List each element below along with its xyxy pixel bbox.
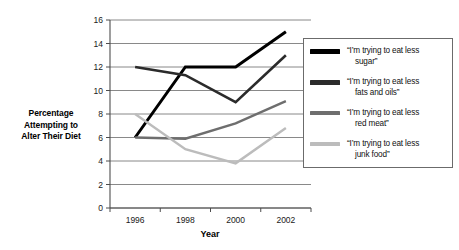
legend-label-line-1: “I’m trying to eat less xyxy=(347,108,419,117)
chart-figure: Percentage Attempting to Alter Their Die… xyxy=(0,0,459,250)
x-tick-marks xyxy=(110,208,311,212)
legend-swatch-icon xyxy=(310,142,340,146)
legend-item: “I’m trying to eat lessjunk food” xyxy=(310,138,452,168)
series-line xyxy=(135,32,286,138)
legend-label-line-1: “I’m trying to eat less xyxy=(347,46,419,55)
x-tick-label: 1996 xyxy=(126,215,145,225)
legend-item: “I’m trying to eat lesssugar” xyxy=(310,45,452,75)
legend-label-line-1: “I’m trying to eat less xyxy=(347,77,419,86)
y-tick-labels: 0246810121416 xyxy=(94,15,104,213)
y-tick-label: 16 xyxy=(94,15,104,25)
x-tick-label: 2002 xyxy=(276,215,295,225)
x-axis-title: Year xyxy=(110,229,310,239)
y-tick-label: 14 xyxy=(94,39,104,49)
legend-label-line-2: junk food” xyxy=(347,149,419,160)
legend-swatch-icon xyxy=(310,111,340,115)
legend-item: “I’m trying to eat lessfats and oils” xyxy=(310,76,452,106)
series-line xyxy=(135,55,286,102)
legend-label-line-2: fats and oils” xyxy=(347,87,419,98)
y-tick-label: 10 xyxy=(94,86,104,96)
legend-label: “I’m trying to eat lessjunk food” xyxy=(347,138,419,160)
gridlines xyxy=(110,20,311,208)
y-tick-label: 12 xyxy=(94,62,104,72)
data-series-lines xyxy=(135,32,286,164)
legend-swatch-icon xyxy=(310,49,340,54)
legend-label: “I’m trying to eat lesssugar” xyxy=(347,45,419,67)
x-tick-label: 2000 xyxy=(226,215,245,225)
y-tick-label: 2 xyxy=(98,180,103,190)
legend-label-line-2: red meat” xyxy=(347,118,419,129)
y-tick-label: 8 xyxy=(98,109,103,119)
legend-label: “I’m trying to eat lessfats and oils” xyxy=(347,76,419,98)
y-tick-marks xyxy=(106,20,110,208)
x-tick-labels: 1996199820002002 xyxy=(126,215,296,225)
legend-label-line-2: sugar” xyxy=(347,56,419,67)
legend-swatch-icon xyxy=(310,80,340,85)
y-tick-label: 0 xyxy=(98,203,103,213)
y-tick-label: 6 xyxy=(98,133,103,143)
legend-label: “I’m trying to eat lessred meat” xyxy=(347,107,419,129)
chart-legend: “I’m trying to eat lesssugar”“I’m trying… xyxy=(303,38,453,168)
x-tick-label: 1998 xyxy=(176,215,195,225)
legend-label-line-1: “I’m trying to eat less xyxy=(347,139,419,148)
legend-item: “I’m trying to eat lessred meat” xyxy=(310,107,452,137)
y-tick-label: 4 xyxy=(98,156,103,166)
